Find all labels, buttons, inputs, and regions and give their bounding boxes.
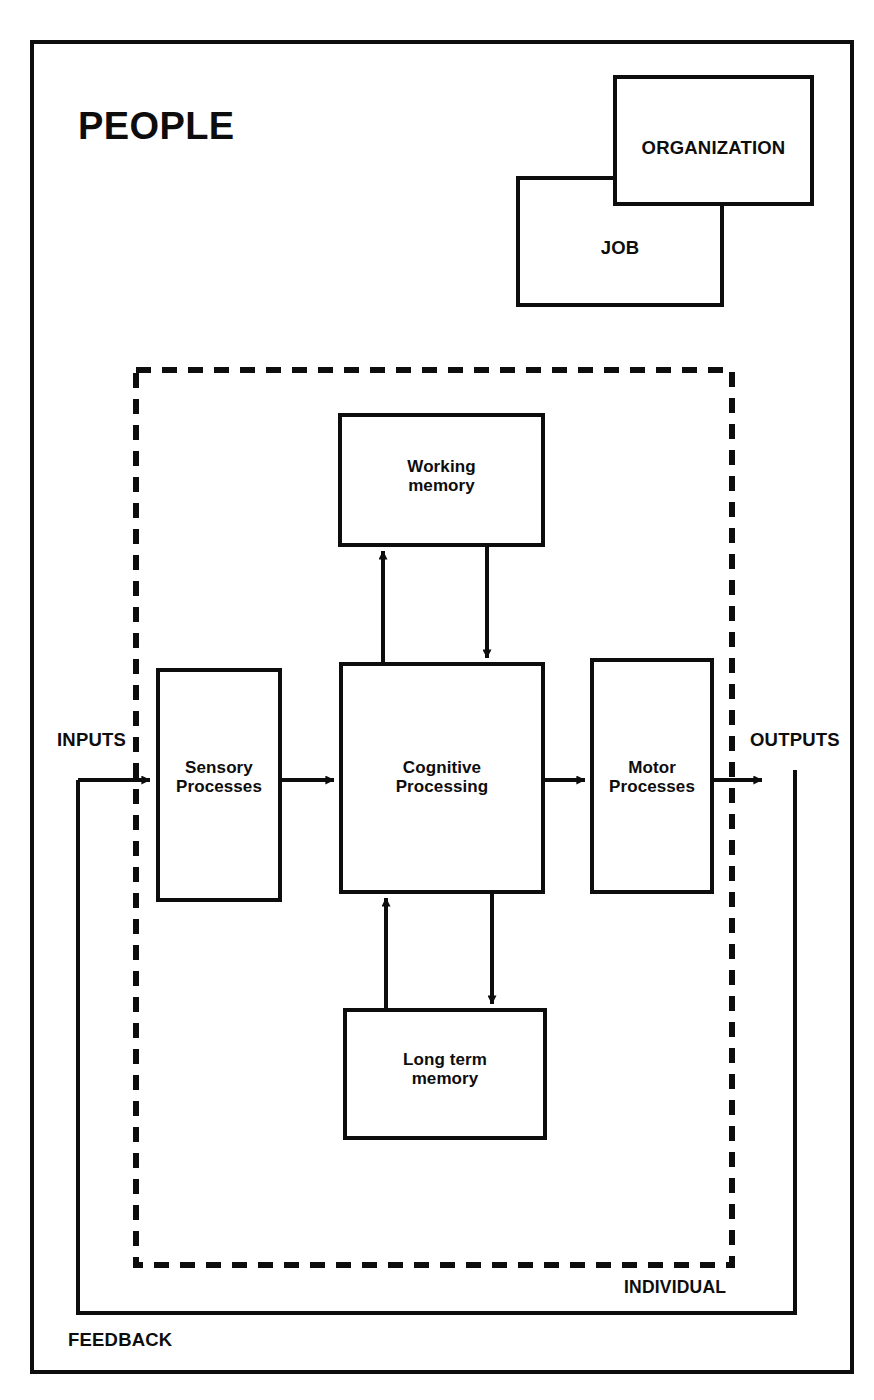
feedback-label: FEEDBACK — [68, 1330, 172, 1351]
individual-dashed-boundary — [136, 370, 732, 1265]
cognitive-processing-label: Cognitive Processing — [341, 758, 543, 796]
individual-boundary-label: INDIVIDUAL — [624, 1278, 726, 1298]
sensory-processes-label: Sensory Processes — [158, 758, 280, 796]
page-title: PEOPLE — [78, 105, 235, 148]
people-outer-frame — [32, 42, 852, 1372]
feedback-loop-path — [78, 770, 795, 1313]
outputs-label: OUTPUTS — [750, 730, 840, 751]
diagram-canvas: PEOPLE ORGANIZATION JOB Working memory S… — [0, 0, 874, 1400]
organization-box-label: ORGANIZATION — [615, 138, 812, 159]
motor-processes-label: Motor Processes — [592, 758, 712, 796]
working-memory-label: Working memory — [340, 457, 543, 495]
long-term-memory-label: Long term memory — [345, 1050, 545, 1088]
inputs-label: INPUTS — [57, 730, 126, 751]
job-box-label: JOB — [518, 238, 722, 259]
diagram-vector-layer — [0, 0, 874, 1400]
